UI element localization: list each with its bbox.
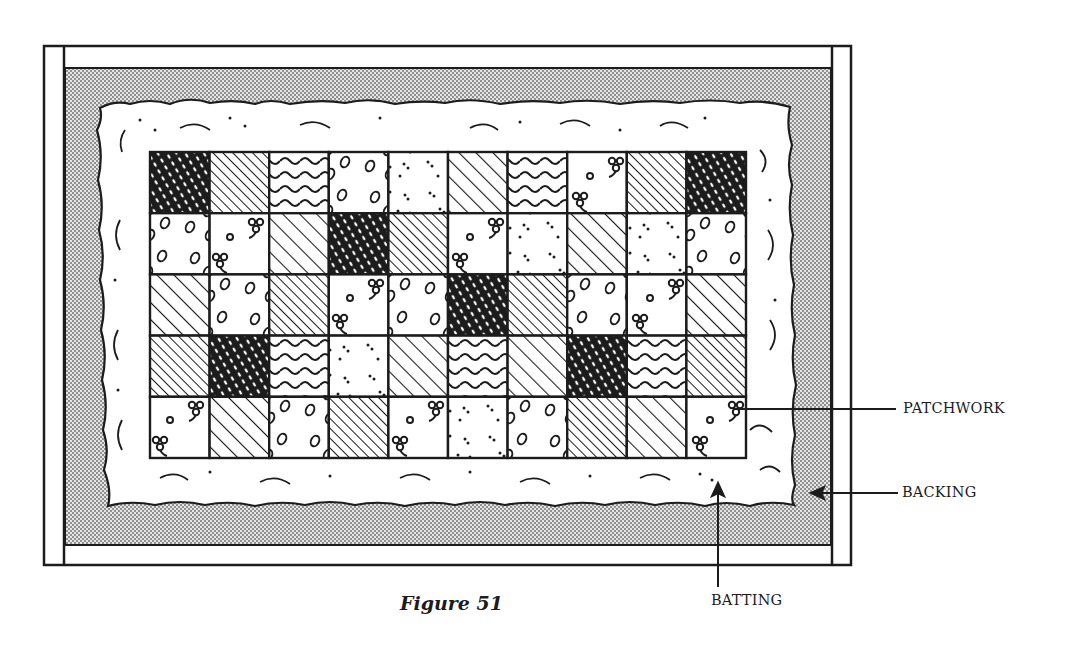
patch-flowers — [627, 274, 687, 335]
figure-caption: Figure 51 — [400, 592, 503, 614]
patch-dots — [388, 152, 448, 213]
patch-hatch-fine — [627, 152, 687, 213]
patch-dark — [329, 213, 389, 274]
patch-hatch-fine — [329, 397, 389, 458]
patch-flowers — [388, 397, 448, 458]
patch-flowers — [686, 397, 746, 458]
patch-dark — [567, 336, 627, 397]
patch-hatch-fine — [210, 152, 270, 213]
patch-ovals — [210, 274, 270, 335]
patch-hatch-wide — [448, 152, 508, 213]
patch-ovals — [508, 397, 568, 458]
patch-hatch-wide — [388, 336, 448, 397]
patch-hatch-wide — [627, 397, 687, 458]
patch-hatch-wide — [508, 336, 568, 397]
patch-ovals — [388, 274, 448, 335]
patch-ovals — [329, 152, 389, 213]
patch-dots — [329, 336, 389, 397]
patch-hatch-fine — [567, 397, 627, 458]
patch-flowers — [210, 213, 270, 274]
patch-wavy — [448, 336, 508, 397]
patch-hatch-fine — [686, 336, 746, 397]
patch-hatch-fine — [150, 336, 210, 397]
patch-dark — [150, 152, 210, 213]
patch-ovals — [686, 213, 746, 274]
patch-dots — [448, 397, 508, 458]
patch-wavy — [508, 152, 568, 213]
patch-hatch-wide — [210, 397, 270, 458]
patch-dots — [627, 213, 687, 274]
patch-wavy — [269, 152, 329, 213]
patch-dark — [686, 152, 746, 213]
patch-ovals — [269, 397, 329, 458]
patch-hatch-wide — [150, 274, 210, 335]
patch-flowers — [567, 152, 627, 213]
batting-label: BATTING — [711, 592, 782, 608]
patch-flowers — [448, 213, 508, 274]
patch-flowers — [329, 274, 389, 335]
patch-hatch-wide — [567, 213, 627, 274]
patch-hatch-wide — [686, 274, 746, 335]
quilt-layers-diagram — [0, 0, 1067, 657]
patchwork-label: PATCHWORK — [903, 400, 1005, 416]
backing-label: BACKING — [902, 484, 976, 500]
patch-ovals — [567, 274, 627, 335]
patch-wavy — [627, 336, 687, 397]
patch-hatch-wide — [269, 213, 329, 274]
patch-dark — [210, 336, 270, 397]
patch-dots — [508, 213, 568, 274]
patch-hatch-fine — [269, 274, 329, 335]
patch-ovals — [150, 213, 210, 274]
patch-hatch-fine — [508, 274, 568, 335]
patch-dark — [448, 274, 508, 335]
patch-hatch-fine — [388, 213, 448, 274]
patchwork-grid — [150, 152, 746, 458]
patch-wavy — [269, 336, 329, 397]
patch-flowers — [150, 397, 210, 458]
